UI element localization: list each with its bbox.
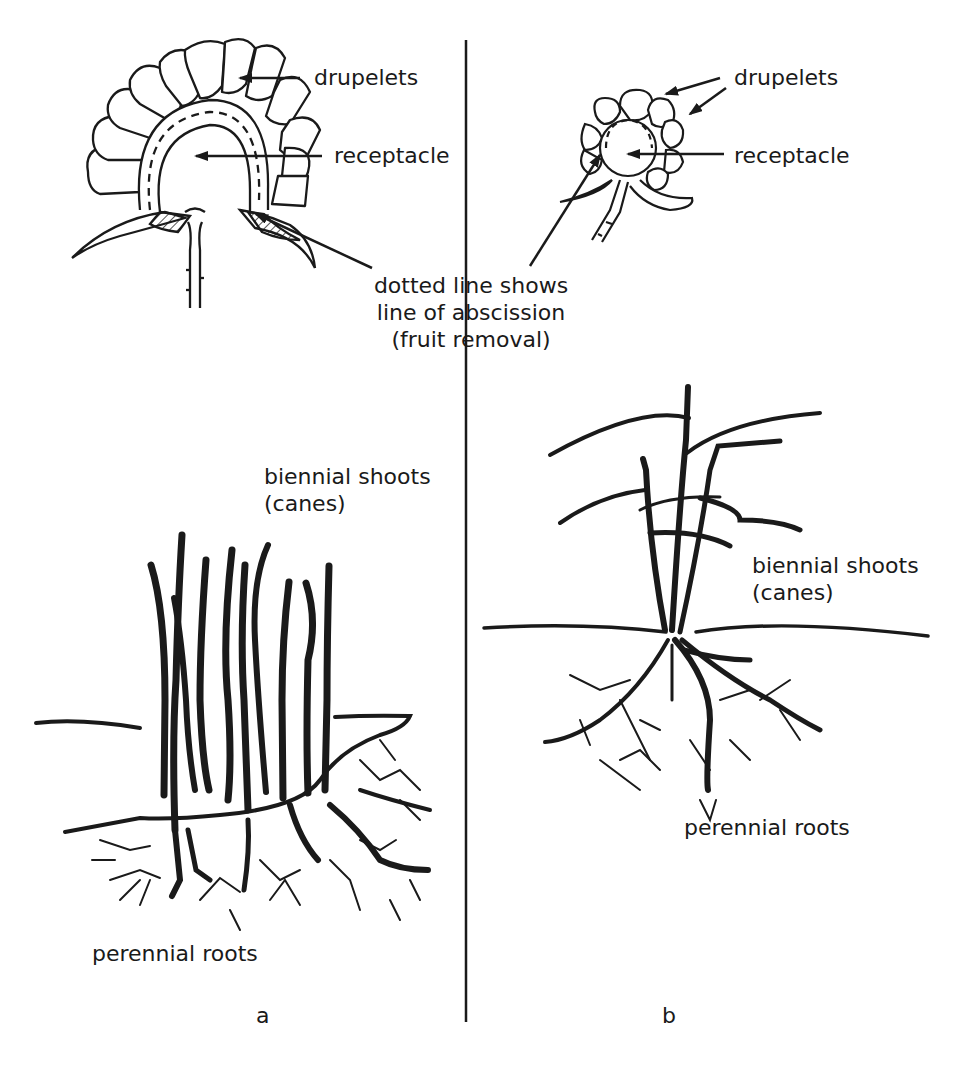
label-shoots-b-line1: biennial shoots [752, 552, 919, 579]
arrow-abscission-b [530, 155, 600, 266]
label-shoots-a-line1: biennial shoots [264, 463, 431, 490]
label-drupelets-a: drupelets [314, 64, 418, 91]
plant-b-ground [484, 626, 928, 636]
label-receptacle-b: receptacle [734, 142, 850, 169]
panel-letter-b: b [662, 1002, 676, 1029]
arrow-drupelets-b-1 [666, 78, 720, 94]
label-roots-b: perennial roots [684, 814, 850, 841]
fruit-b-drawing [581, 90, 683, 190]
label-shoots-b-line2: (canes) [752, 579, 919, 606]
panel-letter-a: a [256, 1002, 269, 1029]
label-drupelets-b: drupelets [734, 64, 838, 91]
arrow-drupelets-b-2 [690, 88, 726, 114]
abscission-caption-line2: line of abscission [340, 299, 602, 326]
label-shoots-b: biennial shoots (canes) [752, 552, 919, 606]
label-roots-a: perennial roots [92, 940, 258, 967]
abscission-caption: dotted line shows line of abscission (fr… [340, 272, 602, 353]
label-receptacle-a: receptacle [334, 142, 450, 169]
plant-b-roots [545, 640, 820, 820]
abscission-caption-line1: dotted line shows [340, 272, 602, 299]
plant-a-ground [36, 716, 410, 832]
abscission-caption-line3: (fruit removal) [340, 326, 602, 353]
label-shoots-a: biennial shoots (canes) [264, 463, 431, 517]
plant-a-canes [151, 535, 329, 830]
label-shoots-a-line2: (canes) [264, 490, 431, 517]
